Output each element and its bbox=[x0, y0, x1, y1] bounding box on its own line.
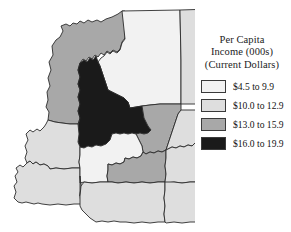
county-lapaz bbox=[25, 120, 80, 169]
legend-swatch bbox=[201, 137, 226, 150]
choropleth-figure: Per Capita Income (000s) (Current Dollar… bbox=[0, 0, 291, 232]
map-area bbox=[0, 0, 195, 232]
legend-title-line-2: Income (000s) bbox=[193, 46, 291, 58]
map-legend: Per Capita Income (000s) (Current Dollar… bbox=[193, 34, 291, 164]
legend-item-label: $10.0 to 12.9 bbox=[233, 100, 284, 111]
legend-swatch bbox=[201, 118, 226, 131]
legend-item-label: $16.0 to 19.9 bbox=[233, 138, 284, 149]
county-cochise bbox=[164, 182, 195, 223]
legend-item: $16.0 to 19.9 bbox=[193, 135, 291, 152]
legend-item-list: $4.5 to 9.9 $10.0 to 12.9 $13.0 to 15.9 … bbox=[193, 78, 291, 152]
legend-swatch bbox=[201, 80, 226, 93]
legend-item: $10.0 to 12.9 bbox=[193, 97, 291, 114]
legend-item-label: $13.0 to 15.9 bbox=[233, 119, 284, 130]
legend-item: $13.0 to 15.9 bbox=[193, 116, 291, 133]
legend-title-line-3: (Current Dollars) bbox=[193, 59, 291, 71]
legend-swatch bbox=[201, 99, 226, 112]
legend-item-label: $4.5 to 9.9 bbox=[233, 81, 274, 92]
legend-item: $4.5 to 9.9 bbox=[193, 78, 291, 95]
arizona-county-map bbox=[0, 0, 195, 232]
legend-title-line-1: Per Capita bbox=[193, 34, 291, 46]
legend-title: Per Capita Income (000s) (Current Dollar… bbox=[193, 34, 291, 71]
